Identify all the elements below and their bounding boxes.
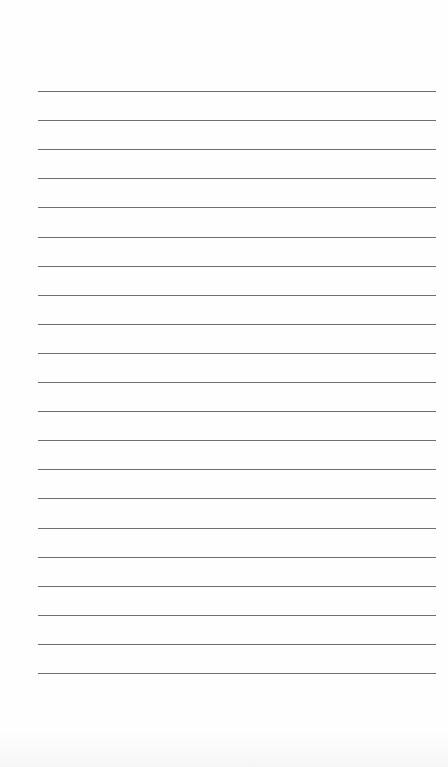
ruled-line <box>38 644 436 645</box>
lined-paper-page <box>0 0 448 767</box>
ruled-line <box>38 557 436 558</box>
ruled-line <box>38 673 436 674</box>
ruled-line <box>38 440 436 441</box>
ruled-line <box>38 353 436 354</box>
ruled-line <box>38 91 436 92</box>
ruled-line <box>38 382 436 383</box>
ruled-line <box>38 411 436 412</box>
ruled-line <box>38 237 436 238</box>
ruled-line <box>38 324 436 325</box>
ruled-line <box>38 528 436 529</box>
ruled-line <box>38 266 436 267</box>
ruled-line <box>38 498 436 499</box>
ruled-line <box>38 295 436 296</box>
ruled-line <box>38 615 436 616</box>
ruled-line <box>38 207 436 208</box>
ruled-line <box>38 149 436 150</box>
ruled-line <box>38 586 436 587</box>
ruled-line <box>38 178 436 179</box>
ruled-line <box>38 120 436 121</box>
ruled-line <box>38 469 436 470</box>
page-bottom-margin <box>0 727 448 767</box>
